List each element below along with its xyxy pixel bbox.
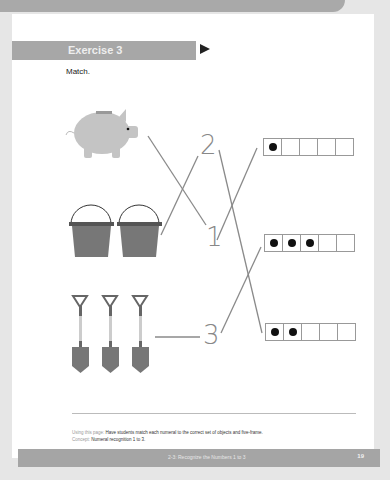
numeral-3: 3 <box>203 320 220 350</box>
match-lines <box>148 136 262 337</box>
counter-dot <box>306 239 314 247</box>
numeral-1: 1 <box>206 222 223 252</box>
shovel-icon <box>72 296 89 373</box>
page-footer: 2-3: Recognize the Numbers 1 to 3 19 <box>18 449 380 467</box>
five-frame-3 <box>264 234 355 252</box>
counter-dot <box>269 143 277 151</box>
page-number: 19 <box>357 453 364 459</box>
shovel-icon <box>132 296 149 373</box>
bucket-icon <box>69 205 114 257</box>
teacher-note-concept: Concept: Numeral recognition 1 to 3. <box>72 437 145 442</box>
counter-dot <box>271 328 279 336</box>
piggy-bank-icon <box>66 109 138 158</box>
five-frame-1 <box>263 138 354 156</box>
lesson-title: 2-3: Recognize the Numbers 1 to 3 <box>168 454 246 460</box>
bucket-icon <box>117 205 162 257</box>
counter-dot <box>289 328 297 336</box>
counter-dot <box>288 239 296 247</box>
teacher-note-using: Using this page: Have students match eac… <box>72 430 263 435</box>
five-frame-2 <box>265 323 356 341</box>
shovel-icon <box>102 296 119 373</box>
counter-dot <box>270 239 278 247</box>
numeral-2: 2 <box>200 130 217 160</box>
divider <box>72 413 356 414</box>
